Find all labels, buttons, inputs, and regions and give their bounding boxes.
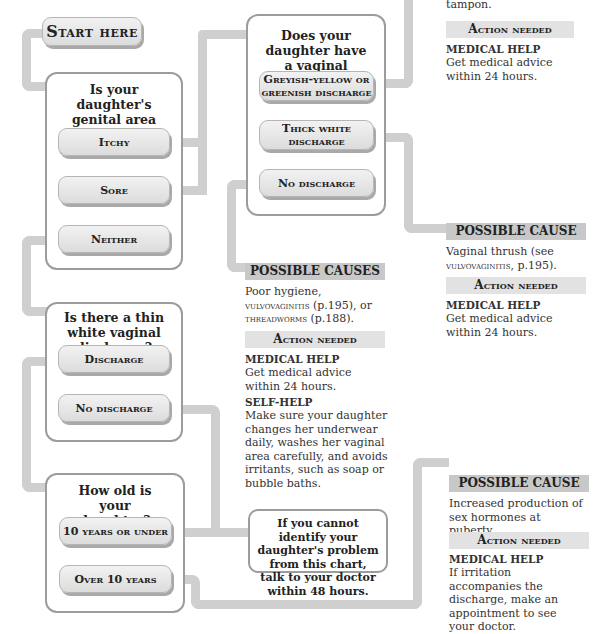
start-here-label: Start here bbox=[46, 25, 138, 38]
possible-causes-header-hygiene: POSSIBLE CAUSES bbox=[245, 263, 385, 280]
start-here-button[interactable]: Start here bbox=[42, 17, 142, 46]
top-cut-text-right: tampon. bbox=[446, 0, 492, 12]
connector-q2-top bbox=[198, 30, 246, 39]
possible-cause-header-puberty: POSSIBLE CAUSE bbox=[449, 475, 589, 492]
medical-help-text-top: Get medical advice within 24 hours. bbox=[446, 56, 576, 83]
option-10-years-or-under[interactable]: 10 years or under bbox=[59, 517, 172, 545]
option-no-discharge-thin-label: No discharge bbox=[75, 402, 152, 415]
option-itchy[interactable]: Itchy bbox=[58, 128, 170, 156]
option-10-years-or-under-label: 10 years or under bbox=[63, 525, 168, 538]
option-over-10-years-label: Over 10 years bbox=[75, 573, 157, 586]
connector-thick-end bbox=[404, 224, 448, 233]
self-help-text-hygiene: Make sure your daughter changes her unde… bbox=[245, 409, 390, 490]
cause-text-hygiene: Poor hygiene, vulvovaginitis (p.195), or… bbox=[245, 285, 385, 326]
connector-puberty-up bbox=[413, 458, 422, 609]
option-discharge[interactable]: Discharge bbox=[58, 345, 170, 373]
option-sore[interactable]: Sore bbox=[58, 176, 170, 204]
medical-help-text-thrush: Get medical advice within 24 hours. bbox=[446, 312, 576, 339]
option-no-discharge[interactable]: No discharge bbox=[259, 169, 374, 197]
connector-greyish-up bbox=[404, 0, 413, 88]
connector-itchy-sore-q2 bbox=[198, 30, 207, 195]
connector-start-stub bbox=[22, 29, 42, 38]
cause-text-thrush: Vaginal thrush (see vulvovaginitis, p.19… bbox=[446, 245, 586, 272]
option-thick-white[interactable]: Thick white discharge bbox=[259, 120, 374, 150]
possible-cause-header-thrush: POSSIBLE CAUSE bbox=[446, 223, 586, 240]
option-neither-label: Neither bbox=[91, 233, 137, 246]
option-thick-white-label: Thick white discharge bbox=[260, 122, 373, 148]
option-over-10-years[interactable]: Over 10 years bbox=[59, 565, 172, 593]
medical-help-label-puberty: MEDICAL HELP bbox=[449, 553, 543, 567]
medical-help-text-hygiene: Get medical advice within 24 hours. bbox=[245, 366, 365, 393]
fallback-note-text: If you cannot identify your daughter's p… bbox=[250, 517, 386, 598]
connector-nodisch3-stub bbox=[178, 405, 218, 414]
option-itchy-label: Itchy bbox=[99, 136, 130, 149]
option-sore-label: Sore bbox=[100, 184, 128, 197]
action-needed-header-puberty: Action needed bbox=[449, 532, 589, 549]
connector-puberty-end bbox=[413, 458, 449, 467]
connector-nodisch-hygiene bbox=[227, 180, 236, 272]
medical-help-label-hygiene: MEDICAL HELP bbox=[245, 353, 339, 367]
fallback-note: If you cannot identify your daughter's p… bbox=[248, 509, 388, 573]
connector-hygiene-end bbox=[227, 263, 245, 272]
medical-help-text-puberty: If irritation accompanies the discharge,… bbox=[449, 566, 584, 634]
option-no-discharge-thin[interactable]: No discharge bbox=[58, 394, 170, 422]
self-help-label-hygiene: SELF-HELP bbox=[245, 396, 313, 410]
option-neither[interactable]: Neither bbox=[58, 225, 170, 253]
action-needed-header-hygiene: Action needed bbox=[245, 331, 385, 348]
option-discharge-label: Discharge bbox=[85, 353, 144, 366]
medical-help-label-top: MEDICAL HELP bbox=[446, 43, 540, 57]
option-greyish-yellow[interactable]: Greyish-yellow or greenish discharge bbox=[259, 71, 374, 101]
connector-thick-white bbox=[404, 133, 413, 233]
medical-help-label-thrush: MEDICAL HELP bbox=[446, 299, 540, 313]
connector-neither-q3 bbox=[22, 236, 31, 316]
action-needed-header-thrush: Action needed bbox=[446, 277, 586, 294]
action-needed-header-top: Action needed bbox=[446, 21, 574, 38]
connector-over10-bottom bbox=[191, 600, 422, 609]
connector-disch-q4 bbox=[22, 357, 31, 492]
option-greyish-yellow-label: Greyish-yellow or greenish discharge bbox=[260, 73, 373, 99]
option-no-discharge-label: No discharge bbox=[278, 177, 355, 190]
connector-10under-note bbox=[178, 528, 248, 537]
connector-nodisch3-note bbox=[211, 405, 220, 537]
